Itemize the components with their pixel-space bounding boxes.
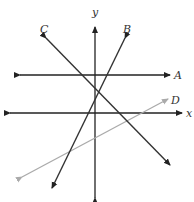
line-d-label: D: [170, 94, 180, 107]
coordinate-diagram: y x A B C D: [0, 0, 194, 202]
line-b-label: B: [122, 23, 131, 36]
line-a-label: A: [173, 69, 182, 82]
line-c-label: C: [40, 23, 49, 36]
x-axis-label: x: [186, 107, 193, 120]
line-c: [46, 38, 170, 165]
y-axis-label: y: [91, 6, 99, 19]
